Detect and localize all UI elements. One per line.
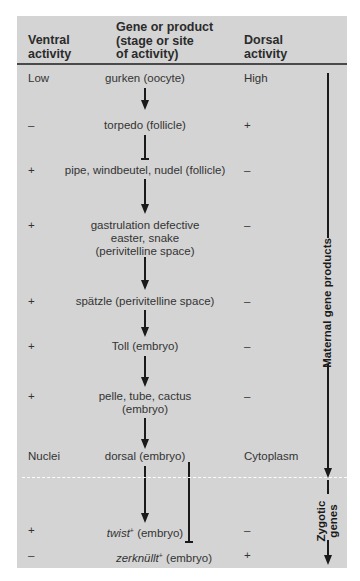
zygotic-label: Zygotic genes xyxy=(315,498,339,544)
arrow-down-icon xyxy=(141,513,149,523)
arrow-down-icon xyxy=(141,100,149,110)
arrow-down-icon xyxy=(141,280,149,290)
gene-zerknullt-name: zerknüllt xyxy=(116,552,159,564)
gene-toll: Toll (embryo) xyxy=(112,340,178,353)
gene-zerknullt: zerknüllt+ (embryo) xyxy=(116,549,212,565)
dorsal-spatzle: – xyxy=(244,295,250,308)
gene-pipe: pipe, windbeutel, nudel (follicle) xyxy=(65,164,225,177)
dorsal-pipe: – xyxy=(244,164,250,177)
gene-gurken: gurken (oocyte) xyxy=(105,72,185,85)
gene-pelle-line1: pelle, tube, cactus xyxy=(99,390,192,403)
maternal-bracket-top xyxy=(327,73,329,238)
gene-pelle: pelle, tube, cactus (embryo) xyxy=(99,390,192,416)
dorsal-torpedo: + xyxy=(244,119,251,132)
arrow-shaft xyxy=(144,310,146,328)
header-gene-line1: Gene or product xyxy=(116,21,213,35)
dorsal-dorsal: Cytoplasm xyxy=(244,450,298,463)
gene-zerknullt-site: (embryo) xyxy=(163,552,212,564)
gene-twist: twist+ (embryo) xyxy=(107,524,183,540)
header-gene-line2: (stage or site xyxy=(116,35,213,49)
arrow-shaft xyxy=(144,466,146,514)
gene-dorsal: dorsal (embryo) xyxy=(105,450,186,463)
inhibition-shaft xyxy=(144,135,146,158)
gene-twist-site: (embryo) xyxy=(134,527,183,539)
dorsal-pelle: – xyxy=(244,390,250,403)
zygotic-bracket-top xyxy=(327,480,329,494)
ventral-toll: + xyxy=(28,340,35,353)
ventral-pelle: + xyxy=(28,390,35,403)
header-ventral-line1: Ventral xyxy=(28,34,71,48)
ventral-gastrulation: + xyxy=(28,219,35,232)
arrow-down-icon xyxy=(141,327,149,337)
header-dorsal: Dorsal activity xyxy=(244,34,287,61)
maternal-bracket-bottom xyxy=(327,364,329,472)
header-divider xyxy=(17,63,347,65)
arrow-down-icon xyxy=(324,555,332,565)
arrow-down-icon xyxy=(141,439,149,449)
arrow-down-icon xyxy=(324,468,332,478)
maternal-zygotic-divider xyxy=(22,477,347,478)
gene-gastrulation: gastrulation defective easter, snake (pe… xyxy=(91,219,200,258)
arrow-down-icon xyxy=(141,377,149,387)
header-gene: Gene or product (stage or site of activi… xyxy=(116,21,213,62)
gene-torpedo: torpedo (follicle) xyxy=(104,119,186,132)
maternal-label: Maternal gene products xyxy=(321,238,333,368)
inhibition-bar-icon xyxy=(185,541,193,543)
gene-spatzle: spätzle (perivitelline space) xyxy=(76,295,215,308)
zygotic-label-line1: Zygotic xyxy=(315,498,327,544)
dorsal-gurken: High xyxy=(244,72,268,85)
ventral-zerknullt: – xyxy=(28,549,34,562)
zygotic-bracket-bottom xyxy=(327,540,329,556)
dorsal-zerknullt: + xyxy=(244,549,251,562)
header-dorsal-line2: activity xyxy=(244,48,287,62)
ventral-dorsal: Nuclei xyxy=(28,450,60,463)
header-gene-line3: of activity) xyxy=(116,48,213,62)
gene-pelle-line2: (embryo) xyxy=(99,403,192,416)
arrow-shaft xyxy=(144,356,146,378)
gene-gastrulation-line1: gastrulation defective xyxy=(91,219,200,232)
inhibition-bar-icon xyxy=(141,158,149,160)
dorsal-twist: – xyxy=(244,524,250,537)
zygotic-label-line2: genes xyxy=(327,498,339,544)
inhibition-shaft xyxy=(188,462,190,542)
ventral-torpedo: – xyxy=(28,119,34,132)
header-ventral: Ventral activity xyxy=(28,34,71,61)
dorsal-toll: – xyxy=(244,340,250,353)
gene-twist-name: twist xyxy=(107,527,130,539)
arrow-shaft xyxy=(144,257,146,281)
header-dorsal-line1: Dorsal xyxy=(244,34,287,48)
arrow-shaft xyxy=(144,418,146,440)
arrow-down-icon xyxy=(141,204,149,214)
ventral-spatzle: + xyxy=(28,295,35,308)
ventral-twist: + xyxy=(28,524,35,537)
gene-gastrulation-line2: easter, snake xyxy=(91,232,200,245)
arrow-shaft xyxy=(144,179,146,205)
dorsal-gastrulation: – xyxy=(244,219,250,232)
diagram-panel xyxy=(17,16,347,568)
ventral-pipe: + xyxy=(28,164,35,177)
ventral-gurken: Low xyxy=(28,72,49,85)
header-ventral-line2: activity xyxy=(28,48,71,62)
